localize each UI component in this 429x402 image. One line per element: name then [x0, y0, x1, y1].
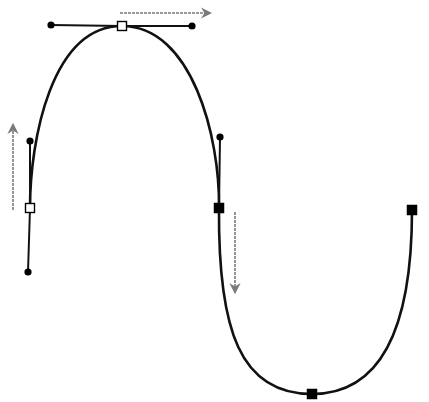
handle-left-bottom-endpoint[interactable] [24, 268, 31, 275]
handle-top-left-endpoint[interactable] [47, 21, 54, 28]
handle-top-right-endpoint[interactable] [188, 22, 195, 29]
anchor-bottom[interactable] [307, 389, 317, 399]
handle-left-top-endpoint[interactable] [26, 137, 33, 144]
control-handles [28, 25, 220, 272]
handle-endpoints [24, 21, 223, 275]
anchor-end[interactable] [407, 205, 417, 215]
direction-arrows [13, 13, 235, 292]
bezier-diagram [0, 0, 429, 402]
anchor-points [26, 22, 418, 400]
handle-middle-up-endpoint[interactable] [216, 133, 223, 140]
handle-left-bottom-line [28, 208, 30, 272]
anchor-left-smooth[interactable] [26, 204, 35, 213]
anchor-top-smooth[interactable] [118, 22, 127, 31]
anchor-middle-corner[interactable] [214, 203, 224, 213]
